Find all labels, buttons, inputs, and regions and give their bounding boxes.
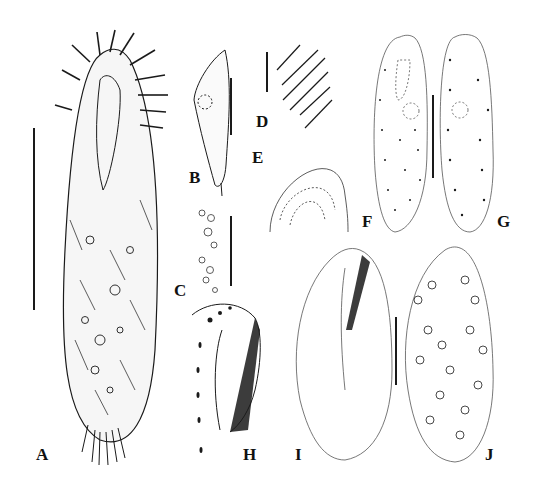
panel-label-a: A [36,446,48,463]
panel-label-i: I [295,446,302,463]
panel-d-scale-bar [266,52,268,92]
panel-j-drawing [405,247,493,462]
panel-label-f: F [362,213,372,230]
panel-label-e: E [252,149,263,166]
panel-b-scale-bar [230,78,232,135]
panel-label-c: C [174,282,186,299]
panel-i-scale-bar [395,317,397,385]
panel-f-drawing [374,35,427,232]
panel-label-b: B [189,169,200,186]
panel-g-drawing [440,35,493,233]
panel-a-drawing [55,30,168,465]
panel-label-g: G [497,213,510,230]
panel-label-h: H [243,446,256,463]
panel-d-drawing [277,45,332,128]
panel-label-j: J [485,446,494,463]
panel-label-d: D [256,113,268,130]
panel-h-drawing [192,304,260,453]
figure-plate [0,0,536,489]
panel-c-scale-bar [230,216,232,286]
panel-f-scale-bar [432,95,434,178]
panel-i-drawing [296,248,392,460]
panel-c-drawing [199,210,218,293]
panel-a-scale-bar [33,128,35,310]
panel-e-drawing [270,169,348,232]
